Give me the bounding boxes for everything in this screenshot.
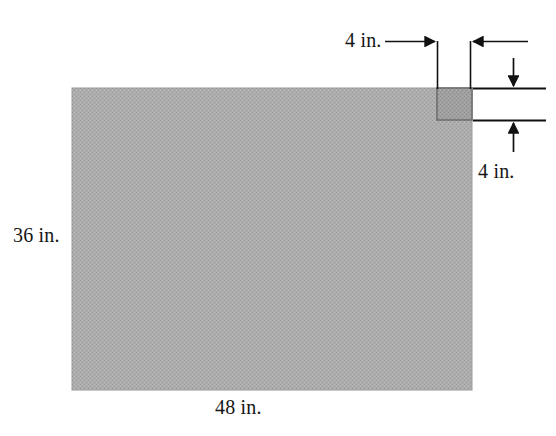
label-sheet-width: 48 in. — [215, 396, 262, 419]
label-corner-height: 4 in. — [478, 160, 515, 183]
corner-cut-square — [437, 88, 472, 120]
diagram-canvas — [0, 0, 556, 436]
label-sheet-height: 36 in. — [13, 224, 60, 247]
sheet-metal-diagram: 4 in. 4 in. 36 in. 48 in. — [0, 0, 556, 436]
sheet-rectangle — [72, 88, 472, 390]
label-corner-width: 4 in. — [345, 29, 382, 52]
